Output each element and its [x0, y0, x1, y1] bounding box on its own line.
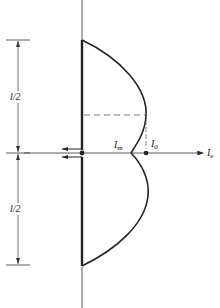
upper-half-length-label: l/2 — [10, 91, 21, 103]
current-curve-upper — [82, 40, 146, 153]
lower-half-length-label: l/2 — [10, 203, 21, 215]
i0-label: I0 — [151, 139, 158, 151]
diagram-canvas — [0, 0, 220, 308]
i0-point-dot — [144, 151, 149, 156]
feed-point-dot — [80, 151, 85, 156]
ie-axis-label: Ie — [207, 148, 213, 160]
current-curve-lower — [82, 153, 148, 266]
im-label: Im — [114, 140, 123, 152]
